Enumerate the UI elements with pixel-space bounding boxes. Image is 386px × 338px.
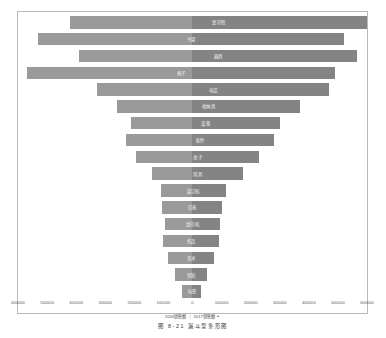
x-tick-label: 100000 xyxy=(215,300,229,305)
bar-row: 器具 xyxy=(18,48,367,65)
bar-row: 剪贴 xyxy=(18,266,367,283)
bar[interactable]: 标签 xyxy=(182,285,201,297)
x-tick-label: 300000 xyxy=(98,300,112,305)
x-tick-label: 600000 xyxy=(11,300,25,305)
bar-segment-2017[interactable] xyxy=(192,134,273,146)
bar-segment-2017[interactable] xyxy=(192,218,220,230)
bar-row: 信奉 xyxy=(18,199,367,216)
bar-row: 配件 xyxy=(18,132,367,149)
bar-segment-2017[interactable] xyxy=(192,33,343,45)
figure: 复印纸书架器具椅子电话收纳具设备配件桌子用具装订机信奉复印机纸品美术剪贴标签 6… xyxy=(0,0,386,338)
x-tick-label: 0 xyxy=(191,300,193,305)
bar-row: 设备 xyxy=(18,115,367,132)
bar-row: 复印机 xyxy=(18,216,367,233)
bar-segment-2016[interactable] xyxy=(38,33,192,45)
x-tick-label: 600000 xyxy=(360,300,374,305)
bar[interactable]: 剪贴 xyxy=(175,268,207,280)
legend-item[interactable]: 2016销售额 xyxy=(165,313,186,319)
bar-segment-2017[interactable] xyxy=(192,117,279,129)
x-tick-label: 400000 xyxy=(69,300,83,305)
x-tick-label: 400000 xyxy=(302,300,316,305)
bar-segment-2017[interactable] xyxy=(192,83,329,95)
bar-row: 美术 xyxy=(18,249,367,266)
bar-segment-2016[interactable] xyxy=(162,201,193,213)
bar[interactable]: 用具 xyxy=(152,167,244,179)
bar[interactable]: 器具 xyxy=(79,50,357,62)
x-tick-label: 100000 xyxy=(157,300,171,305)
bar-segment-2016[interactable] xyxy=(168,252,193,264)
bar[interactable]: 装订机 xyxy=(161,184,226,196)
bar-segment-2017[interactable] xyxy=(192,167,243,179)
bar-segment-2016[interactable] xyxy=(175,268,192,280)
bar-segment-2016[interactable] xyxy=(126,134,193,146)
bar-segment-2016[interactable] xyxy=(165,218,193,230)
bar-segment-2017[interactable] xyxy=(192,268,207,280)
bar[interactable]: 美术 xyxy=(168,252,215,264)
bar[interactable]: 设备 xyxy=(131,117,279,129)
bar-segment-2016[interactable] xyxy=(97,83,193,95)
x-tick-label: 200000 xyxy=(244,300,258,305)
bar-segment-2017[interactable] xyxy=(192,184,225,196)
bars-area: 复印纸书架器具椅子电话收纳具设备配件桌子用具装订机信奉复印机纸品美术剪贴标签 xyxy=(18,14,367,300)
bar-segment-2016[interactable] xyxy=(27,67,193,79)
bar-row: 椅子 xyxy=(18,64,367,81)
bar-row: 纸品 xyxy=(18,233,367,250)
x-tick-label: 500000 xyxy=(40,300,54,305)
bar[interactable]: 纸品 xyxy=(163,235,218,247)
legend-marker-icon: ▲ xyxy=(216,314,220,318)
bar-segment-2017[interactable] xyxy=(192,50,356,62)
bar-segment-2016[interactable] xyxy=(163,235,192,247)
x-tick-label: 500000 xyxy=(331,300,345,305)
bar[interactable]: 复印纸 xyxy=(70,16,367,28)
figure-caption: 图 8-21 漏斗型条形图 xyxy=(0,322,386,330)
bar-row: 复印纸 xyxy=(18,14,367,31)
legend-separator: | xyxy=(189,314,190,319)
bar-row: 装订机 xyxy=(18,182,367,199)
bar-segment-2016[interactable] xyxy=(136,151,193,163)
bar[interactable]: 书架 xyxy=(38,33,343,45)
x-axis: 6000005000004000003000002000001000000100… xyxy=(18,300,367,313)
bar-row: 书架 xyxy=(18,31,367,48)
bar-row: 标签 xyxy=(18,283,367,300)
bar-segment-2016[interactable] xyxy=(161,184,193,196)
bar-segment-2016[interactable] xyxy=(131,117,192,129)
bar[interactable]: 信奉 xyxy=(162,201,222,213)
plot-frame: 复印纸书架器具椅子电话收纳具设备配件桌子用具装订机信奉复印机纸品美术剪贴标签 6… xyxy=(17,11,368,314)
bar-segment-2017[interactable] xyxy=(192,235,218,247)
bar-row: 电话 xyxy=(18,81,367,98)
bar[interactable]: 收纳具 xyxy=(117,100,300,112)
bar-segment-2016[interactable] xyxy=(117,100,193,112)
bar-segment-2017[interactable] xyxy=(192,285,201,297)
bar-segment-2017[interactable] xyxy=(192,252,214,264)
legend-label: 2016销售额 xyxy=(165,313,186,319)
bar[interactable]: 电话 xyxy=(97,83,330,95)
x-tick-label: 200000 xyxy=(127,300,141,305)
bar-segment-2016[interactable] xyxy=(152,167,193,179)
bar-segment-2017[interactable] xyxy=(192,201,221,213)
bar-row: 收纳具 xyxy=(18,98,367,115)
bar-segment-2016[interactable] xyxy=(79,50,192,62)
x-tick-label: 300000 xyxy=(273,300,287,305)
bar[interactable]: 椅子 xyxy=(27,67,335,79)
legend-label: 2017销售额 xyxy=(194,313,215,319)
chart-legend: 2016销售额|2017销售额▲ xyxy=(18,313,367,319)
bar[interactable]: 复印机 xyxy=(165,218,220,230)
bar-row: 用具 xyxy=(18,165,367,182)
bar[interactable]: 配件 xyxy=(126,134,274,146)
bar-segment-2016[interactable] xyxy=(182,285,192,297)
bar-segment-2017[interactable] xyxy=(192,100,300,112)
bar-segment-2016[interactable] xyxy=(70,16,192,28)
legend-item[interactable]: 2017销售额▲ xyxy=(194,313,220,319)
bar-row: 桌子 xyxy=(18,149,367,166)
bar-segment-2017[interactable] xyxy=(192,151,259,163)
bar[interactable]: 桌子 xyxy=(136,151,260,163)
bar-segment-2017[interactable] xyxy=(192,16,367,28)
bar-segment-2017[interactable] xyxy=(192,67,335,79)
